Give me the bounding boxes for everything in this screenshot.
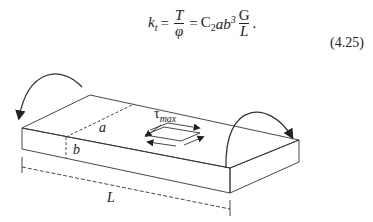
label-b: b (73, 142, 80, 158)
torsion-bar-diagram (0, 0, 373, 222)
label-a: a (99, 120, 106, 136)
bar-end-face (230, 140, 299, 193)
label-L: L (107, 190, 115, 206)
torque-arrow-right (226, 112, 292, 168)
bar-front-face (22, 128, 230, 193)
label-tau-max: τmax (154, 106, 176, 124)
torque-arrow-left (19, 74, 82, 118)
